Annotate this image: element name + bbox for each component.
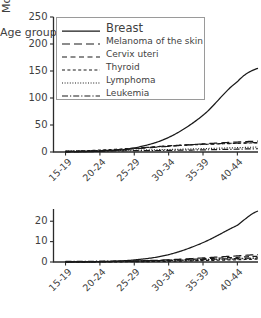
mortality-ytick-label: 20 — [0, 215, 48, 226]
legend-item-melanoma-of-the-skin[interactable]: Melanoma of the skin — [61, 34, 200, 47]
legend-swatch-dash-icon — [61, 48, 101, 60]
legend-label: Lymphoma — [106, 74, 156, 86]
legend-swatch-dashdot-icon — [61, 87, 101, 99]
mortality-series-breast — [66, 211, 258, 262]
incidence-ytick-label: 200 — [0, 38, 48, 49]
legend-label: Thyroid — [106, 61, 140, 73]
legend: BreastMelanoma of the skinCervix uteriTh… — [56, 17, 205, 100]
legend-item-cervix-uteri[interactable]: Cervix uteri — [61, 47, 200, 60]
incidence-series-lymphoma — [66, 147, 258, 151]
incidence-ytick-label: 150 — [0, 65, 48, 76]
legend-swatch-dotted-icon — [61, 74, 101, 86]
legend-item-thyroid[interactable]: Thyroid — [61, 60, 200, 73]
legend-label: Cervix uteri — [106, 48, 159, 60]
incidence-ytick-label: 0 — [0, 146, 48, 157]
legend-swatch-shortdash-icon — [61, 61, 101, 73]
mortality-ytick-label: 10 — [0, 235, 48, 246]
legend-label: Leukemia — [106, 87, 149, 99]
incidence-ytick-label: 250 — [0, 11, 48, 22]
mortality-axes — [54, 209, 259, 262]
figure: Incidence Mortality Age group BreastMela… — [0, 0, 261, 318]
incidence-ytick-label: 50 — [0, 119, 48, 130]
incidence-ytick-label: 100 — [0, 92, 48, 103]
legend-item-lymphoma[interactable]: Lymphoma — [61, 73, 200, 86]
legend-item-breast[interactable]: Breast — [61, 21, 200, 34]
legend-item-leukemia[interactable]: Leukemia — [61, 86, 200, 99]
legend-label: Melanoma of the skin — [106, 35, 203, 47]
legend-label: Breast — [106, 22, 143, 34]
legend-swatch-longdash-icon — [61, 35, 101, 47]
mortality-ytick-label: 0 — [0, 256, 48, 267]
legend-swatch-solid-icon — [61, 22, 101, 34]
